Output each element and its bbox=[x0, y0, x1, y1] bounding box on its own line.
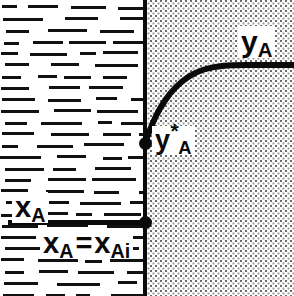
xa-interface-base-left: x bbox=[43, 227, 59, 259]
xa-bulk-label: xA bbox=[12, 192, 48, 223]
xa-interface-label: xA=xAi bbox=[40, 228, 133, 259]
interface-gas-point bbox=[139, 137, 152, 150]
ya-interface-subscript: A bbox=[178, 137, 191, 158]
ya-interface-label: y*A bbox=[152, 126, 195, 155]
xa-interface-base-right: x bbox=[94, 227, 110, 259]
interface-liquid-point bbox=[139, 216, 152, 229]
xa-interface-subscript-right: Ai bbox=[110, 240, 130, 262]
xa-bulk-subscript: A bbox=[31, 204, 45, 226]
ya-interface-base: y bbox=[155, 125, 170, 155]
ya-bulk-subscript: A bbox=[258, 39, 273, 61]
ya-bulk-base: y bbox=[241, 25, 258, 58]
concentration-profile-figure: yA y*A xA xA=xAi bbox=[0, 0, 294, 296]
xa-interface-equals: = bbox=[73, 227, 94, 259]
ya-bulk-label: yA bbox=[238, 26, 275, 58]
xa-bulk-base: x bbox=[15, 191, 31, 223]
xa-interface-subscript-left: A bbox=[59, 240, 73, 262]
